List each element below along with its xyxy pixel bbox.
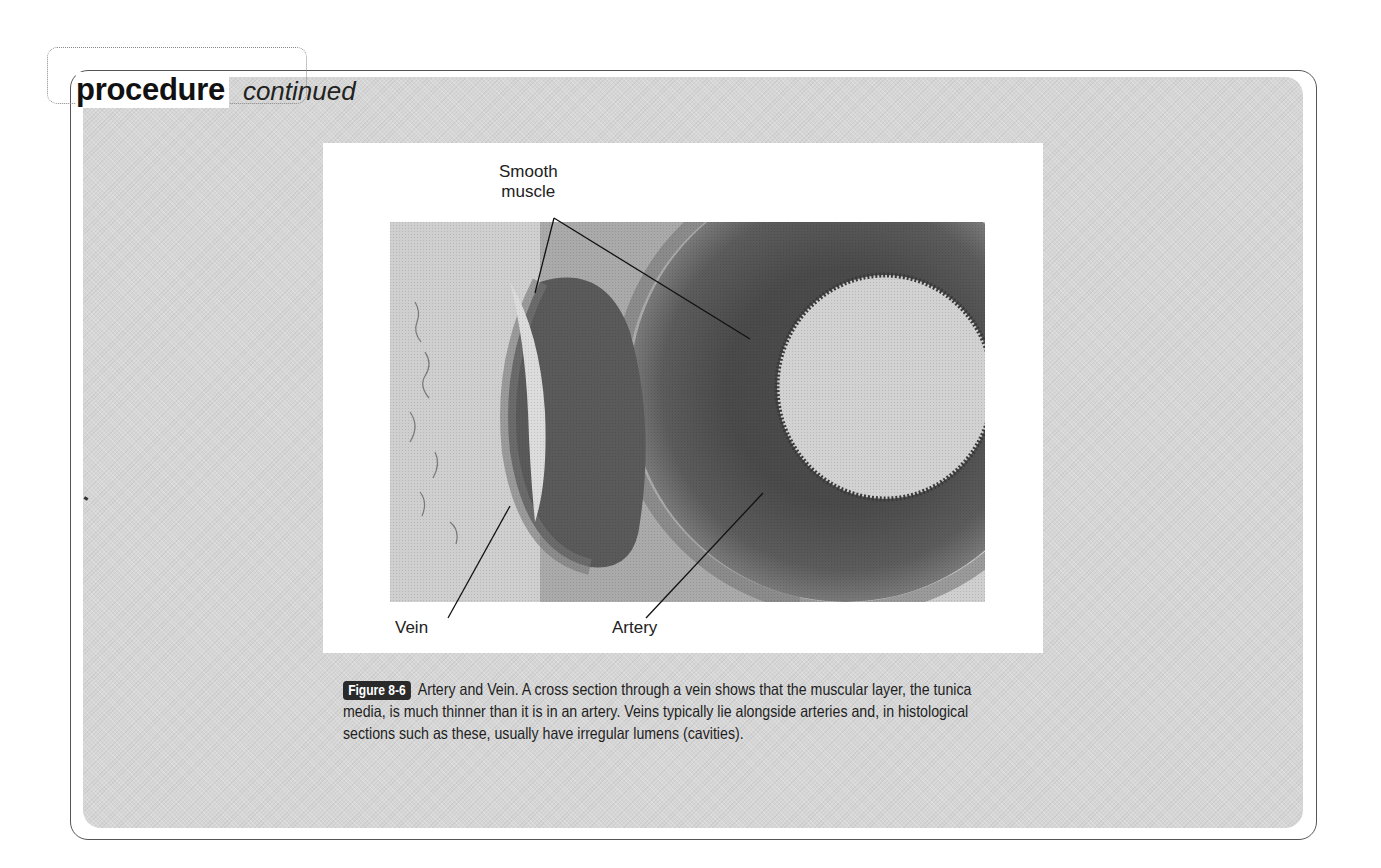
histology-micrograph	[390, 222, 985, 602]
section-header: procedure continued	[76, 72, 356, 108]
figure-panel: Smooth muscle	[323, 143, 1043, 653]
label-smooth-line1: Smooth	[499, 162, 558, 182]
micrograph-image	[390, 222, 985, 602]
section-subtitle: continued	[243, 76, 356, 107]
figure-caption: Figure 8-6Artery and Vein. A cross secti…	[343, 678, 997, 744]
label-artery: Artery	[612, 618, 657, 638]
label-smooth-muscle: Smooth muscle	[499, 162, 558, 202]
section-title: procedure	[76, 72, 229, 108]
label-smooth-line2: muscle	[499, 182, 558, 202]
figure-number-badge: Figure 8-6	[343, 681, 411, 700]
caption-text: Artery and Vein. A cross section through…	[343, 680, 971, 742]
label-vein: Vein	[395, 618, 428, 638]
